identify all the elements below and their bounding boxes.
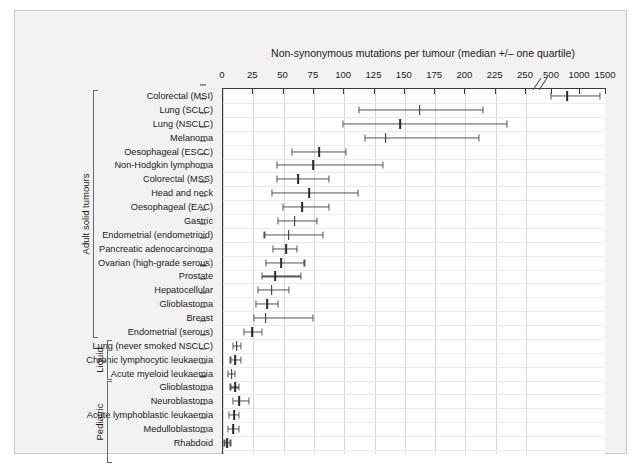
gridline-horizontal: [223, 270, 605, 271]
gridline-horizontal: [223, 214, 605, 215]
x-tick-label: 1000: [568, 69, 589, 80]
y-tick: [200, 223, 206, 224]
median-marker: [312, 160, 314, 170]
error-bar-line: [359, 109, 483, 110]
x-tick: [343, 88, 344, 94]
y-tick: [200, 307, 206, 308]
gridline-horizontal: [223, 394, 605, 395]
median-marker: [234, 382, 236, 392]
x-tick: [404, 88, 405, 94]
y-tick: [200, 98, 206, 99]
gridline-horizontal: [223, 422, 605, 423]
error-bar-cap: [328, 204, 329, 211]
x-tick: [252, 88, 253, 94]
y-axis-label: Endometrial (endometrioid): [102, 230, 213, 240]
gridline-horizontal: [223, 242, 605, 243]
y-tick: [200, 126, 206, 127]
error-bar-line: [258, 290, 288, 291]
median-marker: [226, 438, 228, 448]
x-tick-label: 250: [517, 69, 533, 80]
x-tick-label: 125: [366, 69, 382, 80]
y-tick: [200, 390, 206, 391]
error-bar-cap: [238, 412, 239, 419]
median-marker: [232, 424, 234, 434]
x-tick-label: 50: [277, 69, 288, 80]
error-bar-cap: [292, 148, 293, 155]
y-tick: [200, 320, 206, 321]
median-marker: [566, 91, 568, 101]
gridline-horizontal: [223, 353, 605, 354]
median-marker: [281, 258, 283, 268]
median-marker: [236, 341, 238, 351]
x-tick: [222, 88, 223, 94]
plot-area: [222, 89, 605, 454]
error-bar-cap: [261, 328, 262, 335]
y-tick: [200, 251, 206, 252]
y-axis-label: Endometrial (serous): [128, 327, 213, 337]
median-marker: [298, 174, 300, 184]
y-tick: [200, 418, 206, 419]
gridline-horizontal: [223, 117, 605, 118]
gridline-horizontal: [223, 381, 605, 382]
y-axis-label: Rhabdoid: [174, 438, 213, 448]
error-bar-cap: [272, 245, 273, 252]
error-bar-cap: [224, 440, 225, 447]
error-bar-cap: [232, 342, 233, 349]
error-bar-cap: [241, 342, 242, 349]
error-bar-cap: [316, 217, 317, 224]
y-axis-label: Oesophageal (ESCC): [124, 147, 213, 157]
error-bar-cap: [288, 287, 289, 294]
error-bar-cap: [276, 176, 277, 183]
group-bracket: [107, 340, 112, 380]
x-tick: [434, 88, 435, 94]
median-marker: [234, 355, 236, 365]
gridline-horizontal: [223, 159, 605, 160]
median-marker: [285, 244, 287, 254]
error-bar-cap: [238, 384, 239, 391]
median-marker: [251, 327, 253, 337]
x-tick: [374, 88, 375, 94]
gridline-horizontal: [223, 408, 605, 409]
y-tick: [200, 265, 206, 266]
x-tick: [579, 88, 580, 94]
gridline-horizontal: [223, 367, 605, 368]
error-bar-line: [365, 137, 479, 138]
gridline-horizontal: [223, 325, 605, 326]
y-tick: [200, 334, 206, 335]
error-bar-cap: [482, 106, 483, 113]
y-axis-label: Hepatocellular: [154, 285, 213, 295]
x-tick-label: 75: [308, 69, 319, 80]
error-bar-line: [262, 276, 301, 277]
error-bar-cap: [265, 259, 266, 266]
median-marker: [294, 216, 296, 226]
y-tick: [200, 279, 206, 280]
error-bar-cap: [478, 134, 479, 141]
group-label: Pediatric: [94, 404, 105, 441]
gridline-horizontal: [223, 103, 605, 104]
error-bar-cap: [228, 370, 229, 377]
error-bar-cap: [304, 259, 305, 266]
error-bar-line: [551, 95, 600, 96]
y-axis-label: Ovarian (high-grade serous): [98, 258, 213, 268]
y-axis-label: Glioblastoma: [159, 299, 213, 309]
y-axis-label: Melanoma: [170, 133, 213, 143]
y-tick: [200, 404, 206, 405]
chart-title: Non-synonymous mutations per tumour (med…: [208, 47, 638, 59]
median-marker: [301, 202, 303, 212]
y-axis-label: Chronic lymphocytic leukaemia: [86, 355, 213, 365]
error-bar-cap: [277, 217, 278, 224]
median-marker: [288, 230, 290, 240]
error-bar-cap: [264, 231, 265, 238]
error-bar-line: [264, 234, 322, 235]
x-tick-label: 200: [456, 69, 472, 80]
x-tick-label: 1500: [594, 69, 615, 80]
error-bar-cap: [312, 315, 313, 322]
gridline-horizontal: [223, 200, 605, 201]
error-bar-cap: [345, 148, 346, 155]
x-tick-label: 225: [487, 69, 503, 80]
error-bar-cap: [322, 231, 323, 238]
median-marker: [318, 147, 320, 157]
y-tick: [200, 362, 206, 363]
y-tick: [200, 431, 206, 432]
gridline-horizontal: [223, 311, 605, 312]
